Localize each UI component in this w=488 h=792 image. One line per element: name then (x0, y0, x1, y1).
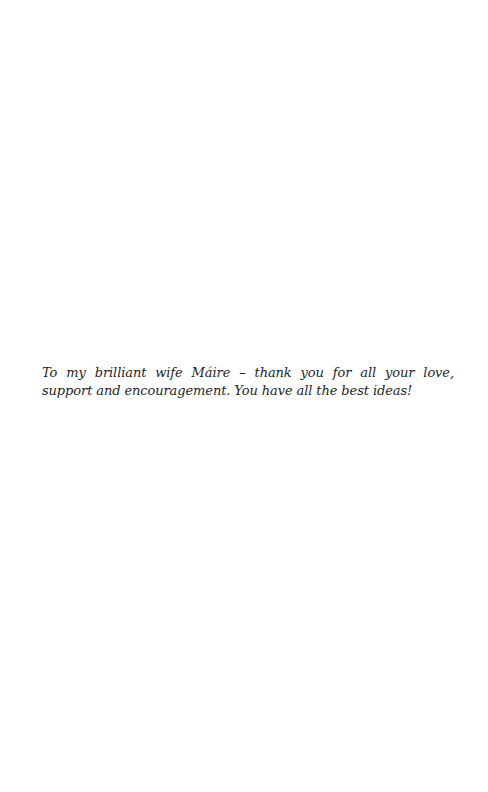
book-page: To my brilliant wife Máire – thank you f… (0, 0, 488, 792)
dedication-text: To my brilliant wife Máire – thank you f… (42, 364, 454, 400)
